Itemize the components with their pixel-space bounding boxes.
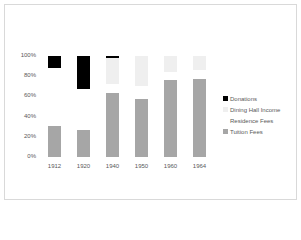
bar-1920: [77, 56, 90, 157]
legend-item: Donations: [223, 93, 280, 104]
bar-segment: [48, 68, 61, 126]
x-tick-label: 1912: [42, 163, 68, 169]
bar-segment: [164, 56, 177, 72]
bar-segment: [193, 56, 206, 70]
bar-segment: [135, 86, 148, 99]
x-tick-label: 1964: [187, 163, 213, 169]
legend-item: Dining Hall Income: [223, 104, 280, 115]
bar-1912: [48, 56, 61, 157]
bar-segment: [77, 89, 90, 129]
y-tick-label: 60%: [14, 92, 36, 98]
x-tick-label: 1960: [158, 163, 184, 169]
legend: DonationsDining Hall IncomeResidence Fee…: [223, 93, 280, 137]
bar-segment: [77, 56, 90, 89]
y-tick-label: 100%: [14, 52, 36, 58]
legend-label: Dining Hall Income: [230, 107, 280, 113]
legend-label: Donations: [230, 96, 257, 102]
bar-segment: [106, 56, 119, 58]
x-tick-label: 1940: [100, 163, 126, 169]
legend-swatch: [223, 107, 228, 112]
bar-1960: [164, 56, 177, 157]
bar-segment: [135, 56, 148, 86]
legend-label: Tuition Fees: [230, 129, 263, 135]
y-tick-label: 0%: [14, 153, 36, 159]
legend-label: Residence Fees: [230, 118, 273, 124]
x-tick-label: 1950: [129, 163, 155, 169]
bar-segment: [106, 93, 119, 157]
bar-1940: [106, 56, 119, 157]
plot-area: [40, 56, 210, 157]
bar-segment: [77, 130, 90, 157]
bar-segment: [164, 72, 177, 80]
bar-segment: [106, 84, 119, 93]
bar-segment: [193, 79, 206, 157]
bar-1964: [193, 56, 206, 157]
bar-segment: [193, 70, 206, 79]
bar-segment: [48, 126, 61, 157]
legend-item: Tuition Fees: [223, 126, 280, 137]
legend-item: Residence Fees: [223, 115, 280, 126]
bar-segment: [164, 80, 177, 157]
legend-swatch: [223, 129, 228, 134]
x-tick-label: 1920: [71, 163, 97, 169]
y-tick-label: 20%: [14, 133, 36, 139]
y-tick-label: 80%: [14, 72, 36, 78]
legend-swatch: [223, 96, 228, 101]
legend-swatch: [223, 118, 228, 123]
bar-1950: [135, 56, 148, 157]
y-tick-label: 40%: [14, 113, 36, 119]
bar-segment: [48, 56, 61, 68]
bar-segment: [135, 99, 148, 157]
bar-segment: [106, 58, 119, 84]
